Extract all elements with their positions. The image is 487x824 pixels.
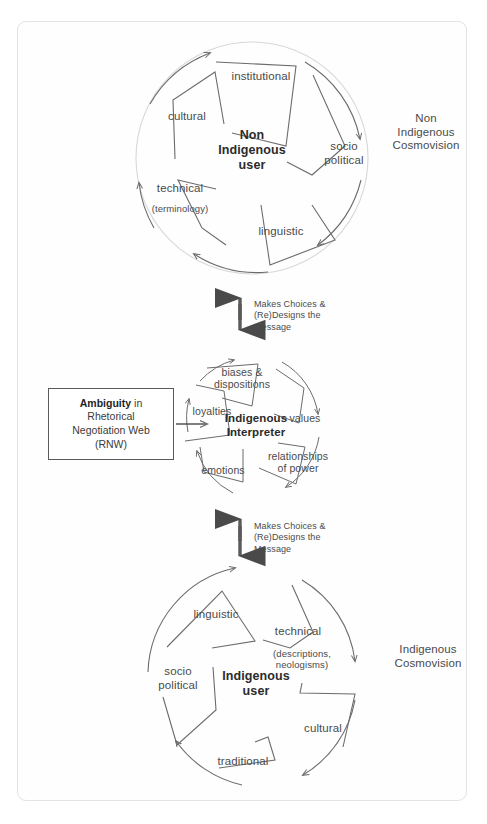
bot-segment-label-cultural: cultural [290,722,356,736]
rnw-emphasis: Ambiguity [80,397,131,409]
bot-segment-label-traditional: traditional [203,755,283,769]
mid-flow-arc-2 [282,362,318,414]
top-segment-label-cultural: cultural [152,110,222,124]
top-segment-sublabel-terminology: (terminology) [134,203,226,214]
connector-top-label: Makes Choices & (Re)Designs the Message [254,299,354,333]
bot-segment-label-technical: technical [262,625,334,639]
mid-circle-core-label: Indigenous Interpreter [216,412,296,439]
bot-segment-sublabel-descriptions-neologisms: (descriptions, neologisms) [256,648,348,670]
mid-segment-label-relationships-of-power: relationships of power [257,450,339,475]
mid-segment-label-emotions: emotions [192,464,254,476]
top-flow-arc-2 [305,62,360,139]
rnw-line2: Rhetorical [87,410,134,422]
bot-segment-label-socio-political: socio political [145,665,211,692]
rnw-box-text: Ambiguity inRhetoricalNegotiation Web(RN… [72,397,149,452]
bot-segment-cultural-shape [300,683,355,747]
rnw-line1-rest: in [131,397,142,409]
top-segment-label-institutional: institutional [216,70,306,84]
rnw-line4: (RNW) [95,438,127,450]
mid-segment-label-biases: biases & dispositions [203,366,281,391]
top-flow-arc-1 [150,53,210,104]
top-segment-label-technical: technical [142,182,218,196]
top-circle-core-label: Non Indigenous user [207,128,297,172]
rnw-line3: Negotiation Web [72,424,149,436]
bot-circle-side-label: Indigenous Cosmovision [378,643,478,670]
top-segment-label-socio-political: socio political [312,140,376,167]
connector-bottom-label: Makes Choices & (Re)Designs the Message [254,521,354,555]
bot-segment-label-linguistic: linguistic [178,608,254,622]
rnw-box: Ambiguity inRhetoricalNegotiation Web(RN… [48,388,174,460]
bot-circle-core-label: Indigenous user [213,669,299,699]
bot-flow-arc-3 [303,700,355,775]
top-segment-label-linguistic: linguistic [243,225,319,239]
top-flow-arc-4 [194,254,268,273]
top-circle-side-label: Non Indigenous Cosmovision [376,112,476,153]
